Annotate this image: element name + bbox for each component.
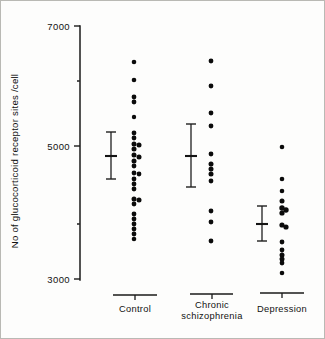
schizophrenia-data-points: [209, 59, 214, 244]
data-dot: [132, 222, 137, 227]
group-label-depression: Depression: [257, 304, 307, 314]
data-dot: [280, 145, 285, 150]
series-chronic-schizophrenia: [185, 59, 214, 244]
figure-container: 7000 5000 3000 No of glucocorticoid rece…: [0, 0, 325, 339]
x-axis-group-schizophrenia: Chronic schizophrenia: [181, 294, 243, 321]
data-dot: [132, 202, 137, 207]
data-dot: [209, 172, 214, 177]
schizophrenia-error-bar: [185, 124, 197, 187]
data-dot: [209, 209, 214, 214]
x-axis-group-control: Control: [113, 295, 157, 314]
scatter-plot: 7000 5000 3000 No of glucocorticoid rece…: [1, 1, 325, 339]
series-control: [105, 60, 142, 242]
data-dot: [209, 167, 214, 172]
y-tick-label-3000: 3000: [47, 274, 70, 285]
data-dot: [132, 95, 137, 100]
data-dot: [280, 240, 285, 245]
group-label-schizophrenia-line2: schizophrenia: [181, 311, 243, 321]
data-dot: [132, 212, 137, 217]
data-dot: [132, 164, 137, 169]
data-dot: [209, 111, 214, 116]
data-dot: [132, 237, 137, 242]
data-dot: [280, 271, 285, 276]
data-dot: [132, 136, 137, 141]
data-dot: [132, 187, 137, 192]
data-dot: [137, 143, 142, 148]
data-dot: [209, 152, 214, 157]
data-dot: [137, 172, 142, 177]
y-tick-label-5000: 5000: [47, 141, 70, 152]
data-dot: [132, 153, 137, 158]
x-axis-group-depression: Depression: [257, 293, 307, 314]
data-dot: [132, 217, 137, 222]
data-dot: [283, 224, 288, 229]
data-dot: [132, 182, 137, 187]
data-dot: [209, 220, 214, 225]
y-tick-label-7000: 7000: [47, 21, 70, 32]
group-label-schizophrenia-line1: Chronic: [195, 300, 229, 310]
data-dot: [132, 78, 137, 83]
data-dot: [132, 177, 137, 182]
data-dot: [209, 84, 214, 89]
data-dot: [209, 124, 214, 129]
data-dot: [209, 239, 214, 244]
data-dot: [132, 100, 137, 105]
y-axis-group: 7000 5000 3000 No of glucocorticoid rece…: [9, 21, 80, 285]
data-dot: [132, 171, 137, 176]
data-dot: [279, 210, 284, 215]
data-dot: [209, 179, 214, 184]
depression-error-bar: [256, 206, 268, 241]
data-dot: [280, 248, 285, 253]
series-depression: [256, 145, 289, 276]
data-dot: [137, 155, 142, 160]
data-dot: [132, 142, 137, 147]
data-dot: [132, 147, 137, 152]
data-dot: [132, 60, 137, 65]
data-dot: [132, 159, 137, 164]
y-axis-title: No of glucocorticoid receptor sites /cel…: [9, 74, 20, 248]
data-dot: [209, 162, 214, 167]
data-dot: [137, 198, 142, 203]
group-label-control: Control: [119, 304, 151, 314]
data-dot: [280, 189, 285, 194]
data-dot: [132, 131, 137, 136]
data-dot: [280, 199, 285, 204]
data-dot: [132, 115, 136, 119]
control-data-points: [132, 60, 142, 242]
data-dot: [132, 232, 137, 237]
control-error-bar: [105, 132, 117, 179]
depression-data-points: [279, 145, 288, 276]
data-dot: [132, 197, 137, 202]
data-dot: [209, 59, 214, 64]
data-dot: [280, 177, 285, 182]
data-dot: [132, 227, 137, 232]
data-dot: [280, 261, 285, 266]
